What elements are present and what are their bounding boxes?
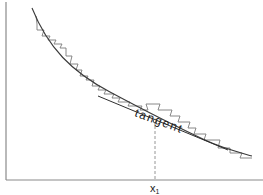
tangent-diagram: tangent x1 <box>0 0 263 195</box>
smooth-curve <box>32 8 252 156</box>
x1-label-subscript: 1 <box>156 188 160 195</box>
x1-label: x1 <box>150 182 160 195</box>
staircase-approximation <box>36 16 252 158</box>
